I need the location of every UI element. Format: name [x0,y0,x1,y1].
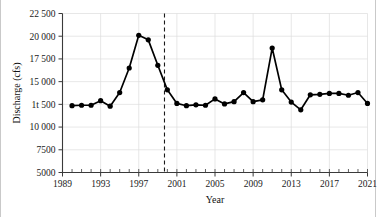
data-point [203,103,208,108]
data-point [184,103,189,108]
x-major-tick-marks-group [63,173,368,177]
y-tick-marks-group [59,14,63,173]
data-point [79,103,84,108]
data-point [108,104,113,109]
discharge-time-series-chart: 5000750010 0001t 50015 00017 50020 00022… [1,0,377,217]
data-point [146,37,151,42]
discharge-line [72,35,367,110]
y-tick-label: 5000 [37,168,56,178]
data-point [88,103,93,108]
y-axis-tick-labels-group: 5000750010 0001t 50015 00017 50020 00022… [29,9,55,178]
x-tick-label: 2013 [282,179,301,189]
data-point [251,99,256,104]
data-point [355,90,360,95]
data-point [165,87,170,92]
x-tick-label: 1989 [53,179,72,189]
y-tick-label: 15 000 [29,77,55,87]
x-tick-label: 2017 [320,179,339,189]
data-point [327,91,332,96]
data-point [270,45,275,50]
x-tick-label: 1993 [91,179,110,189]
data-point [298,107,303,112]
x-tick-label: 2009 [244,179,263,189]
data-point [136,33,141,38]
data-point [155,63,160,68]
x-tick-label: 2021 [358,179,377,189]
y-axis-title: Discharge (cfs) [11,62,23,123]
data-point [241,90,246,95]
data-point [336,91,341,96]
data-point [289,99,294,104]
y-tick-label: 20 000 [29,32,55,42]
y-tick-label: 22 500 [29,9,55,19]
data-point [260,97,265,102]
data-point [98,98,103,103]
data-point [279,87,284,92]
x-tick-label: 2001 [167,179,186,189]
x-axis-title: Year [206,194,225,205]
data-point [346,93,351,98]
y-tick-label: 10 000 [29,122,55,132]
data-point [317,92,322,97]
y-tick-label: 17 500 [29,54,55,64]
data-point [222,101,227,106]
data-point [193,102,198,107]
data-point [308,92,313,97]
y-tick-label: 7500 [37,145,56,155]
data-point [117,90,122,95]
data-point [174,101,179,106]
chart-svg: 5000750010 0001t 50015 00017 50020 00022… [1,0,377,217]
x-tick-label: 1997 [129,179,148,189]
data-point [231,99,236,104]
x-tick-label: 2005 [206,179,225,189]
y-tick-label: 1t 500 [31,100,55,110]
x-axis-tick-labels-group: 198919931997200120052009201320172021 [53,179,377,189]
data-point [69,103,74,108]
data-point [212,96,217,101]
data-point [127,65,132,70]
data-point [365,101,370,106]
